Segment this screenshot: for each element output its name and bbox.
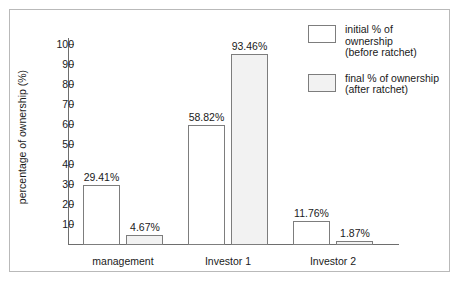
chart-figure: 100 90 80 70 60 50 40 30 20 10 percentag… [0,0,460,282]
bar-label-investor1-initial: 58.82% [179,112,234,123]
legend-item-initial: initial % of ownership (before ratchet) [308,24,443,59]
bar-label-investor1-final: 93.46% [222,41,277,52]
x-category-label-management: management [78,255,168,267]
legend-label-initial-line2: (before ratchet) [345,47,443,59]
bar-management-initial [83,185,120,245]
y-tick-label-20: 20 [48,199,74,209]
bar-investor1-initial [188,125,225,245]
y-tick-label-30: 30 [48,179,74,189]
legend-label-initial: initial % of ownership (before ratchet) [345,24,443,59]
legend-swatch-initial-icon [308,25,336,43]
legend-label-initial-line1: initial % of ownership [345,23,393,47]
legend-label-final: final % of ownership (after ratchet) [345,73,439,96]
chart-legend: initial % of ownership (before ratchet) … [308,24,443,110]
bar-label-management-initial: 29.41% [74,172,129,183]
y-tick-label-50: 50 [48,139,74,149]
y-tick-label-100: 100 [48,39,74,49]
y-tick-label-80: 80 [48,79,74,89]
y-tick-label-60: 60 [48,119,74,129]
bar-investor1-final [231,54,268,245]
bar-investor2-initial [293,221,330,245]
bar-label-management-final: 4.67% [118,222,172,233]
x-category-label-investor1: Investor 1 [183,255,273,267]
x-category-label-investor2: Investor 2 [288,255,378,267]
y-tick-label-40: 40 [48,159,74,169]
bar-investor2-final [336,241,373,245]
y-axis-title: percentage of ownership (%) [16,52,28,222]
bar-label-investor2-initial: 11.76% [284,208,339,219]
legend-item-final: final % of ownership (after ratchet) [308,73,443,96]
legend-label-final-line1: final % of ownership [345,72,439,84]
bar-label-investor2-final: 1.87% [329,228,381,239]
y-tick-label-10: 10 [48,219,74,229]
bar-management-final [126,235,163,245]
y-tick-label-70: 70 [48,99,74,109]
y-tick-label-90: 90 [48,59,74,69]
legend-label-final-line2: (after ratchet) [345,84,439,96]
legend-swatch-final-icon [308,74,336,92]
